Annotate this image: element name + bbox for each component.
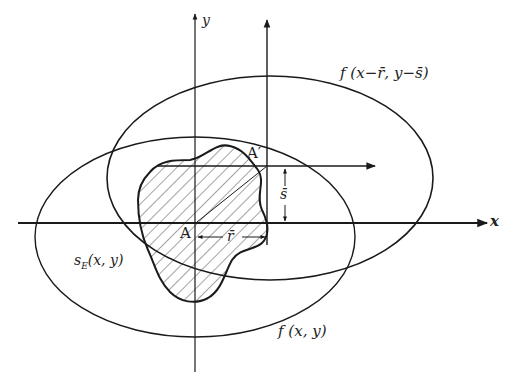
region-label: sE(x, y) <box>74 253 123 271</box>
original-function-label: f (x, y) <box>278 324 327 339</box>
region-label-subscript: E <box>81 261 88 271</box>
shifted-function-label: f (x−r̄, y−s̄) <box>340 66 429 81</box>
r-bar-label: r̄ <box>227 229 234 243</box>
point-A-prime-label: A′ <box>247 146 261 161</box>
region-label-args: (x, y) <box>88 252 124 268</box>
y-axis-label: y <box>202 13 210 27</box>
diagram-canvas <box>0 0 508 378</box>
x-axis-label: x <box>490 214 499 229</box>
diagram-figure: y x f (x−r̄, y−s̄) f (x, y) sE(x, y) A A… <box>0 0 508 378</box>
point-A-label: A <box>180 226 191 241</box>
s-bar-label: s̄ <box>280 187 287 201</box>
